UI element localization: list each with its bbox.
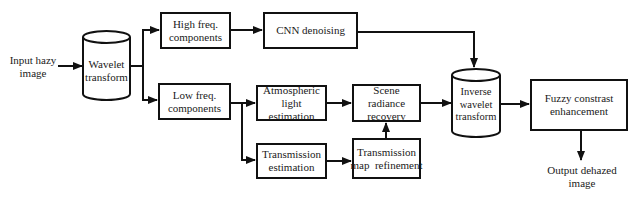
- scene-line2: recovery: [354, 110, 419, 123]
- low-freq-line1: Low freq.: [168, 89, 221, 102]
- transmission-estimation-box: Transmission estimation: [256, 143, 327, 179]
- fuzzy-line1: Fuzzy constrast: [545, 92, 614, 105]
- high-freq-components-box: High freq. components: [160, 12, 231, 49]
- output-line1: Output dehazed: [546, 164, 618, 177]
- fuzzy-line2: enhancement: [545, 105, 614, 118]
- output-line2: image: [546, 177, 618, 190]
- atmospheric-line1: Atmospheric: [258, 84, 325, 97]
- input-label-line1: Input hazy: [8, 54, 58, 67]
- trans-ref-line1: Transmission: [350, 146, 422, 159]
- atmospheric-light-estimation-box: Atmospheric light estimation: [256, 85, 327, 121]
- trans-est-line2: estimation: [262, 161, 321, 174]
- output-dehazed-image-label: Output dehazed image: [546, 164, 618, 190]
- wavelet-transform-label: Wavelet transform: [83, 58, 130, 84]
- wavelet-label-line1: Wavelet: [83, 58, 130, 71]
- transmission-map-refinement-box: Transmission map refinement: [352, 138, 421, 179]
- wavelet-label-line2: transform: [83, 71, 130, 84]
- scene-radiance-recovery-box: Scene radiance recovery: [352, 84, 421, 122]
- input-hazy-image-label: Input hazy image: [8, 54, 58, 80]
- fuzzy-contrast-enhancement-box: Fuzzy constrast enhancement: [530, 79, 628, 131]
- cnn-denoising-box: CNN denoising: [263, 12, 358, 49]
- arrow-cnn-to-inverse: [357, 32, 474, 67]
- inverse-wavelet-transform-label: Inverse wavelet transform: [452, 86, 500, 124]
- high-freq-line1: High freq.: [169, 18, 222, 31]
- trans-ref-line2: map refinement: [350, 159, 422, 172]
- atmospheric-line2: light estimation: [258, 97, 325, 123]
- scene-line1: Scene radiance: [354, 84, 419, 110]
- high-freq-line2: components: [169, 31, 222, 44]
- low-freq-components-box: Low freq. components: [158, 83, 231, 120]
- trans-est-line1: Transmission: [262, 148, 321, 161]
- input-label-line2: image: [8, 67, 58, 80]
- inverse-line1: Inverse: [452, 86, 500, 99]
- cnn-label: CNN denoising: [276, 24, 345, 37]
- inverse-line3: transform: [452, 111, 500, 124]
- inverse-line2: wavelet: [452, 99, 500, 112]
- low-freq-line2: components: [168, 102, 221, 115]
